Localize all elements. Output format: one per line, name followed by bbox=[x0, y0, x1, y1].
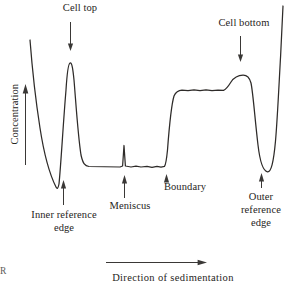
sedimentation-trace-figure: Cell top Cell bottom Inner reference edg… bbox=[0, 0, 295, 289]
concentration-trace-line bbox=[30, 6, 283, 188]
x-axis-arrow bbox=[106, 260, 207, 266]
meniscus-callout-arrow bbox=[122, 175, 127, 198]
label-meniscus: Meniscus bbox=[90, 200, 170, 212]
y-axis-label: Concentration bbox=[9, 68, 21, 160]
label-cell-top: Cell top bbox=[20, 2, 140, 14]
cell-bottom-callout-arrow bbox=[238, 36, 243, 62]
label-cell-bottom: Cell bottom bbox=[194, 17, 294, 29]
y-axis-arrow bbox=[23, 84, 29, 165]
x-axis-label: Direction of sedimentation bbox=[83, 272, 263, 284]
label-boundary: Boundary bbox=[147, 181, 223, 193]
figure-tag: R bbox=[0, 266, 6, 277]
cell-top-callout-arrow bbox=[68, 22, 73, 51]
inner-reference-edge-callout-arrow bbox=[61, 180, 66, 205]
outer-reference-edge-callout-arrow bbox=[259, 173, 264, 188]
label-outer-reference-edge: Outer reference edge bbox=[230, 190, 292, 229]
trace-plot-svg bbox=[0, 0, 295, 289]
